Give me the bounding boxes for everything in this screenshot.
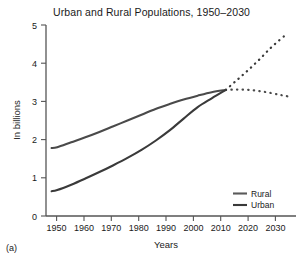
x-axis-title: Years xyxy=(154,239,178,250)
x-tick-label: 1990 xyxy=(156,223,176,233)
data-series-group xyxy=(52,36,291,191)
y-tick-label: 2 xyxy=(32,135,37,145)
figure-caption: (a) xyxy=(6,243,17,253)
legend-label-urban: Urban xyxy=(251,200,274,210)
figure-panel: Urban and Rural Populations, 1950–2030 0… xyxy=(0,0,303,263)
y-axis-tick-labels: 0 1 2 3 4 5 xyxy=(32,21,37,222)
x-tick-label: 2000 xyxy=(183,223,203,233)
x-tick-label: 1950 xyxy=(47,223,67,233)
y-tick-label: 5 xyxy=(32,21,37,31)
rural-line xyxy=(52,90,226,148)
y-tick-label: 0 xyxy=(32,212,37,222)
x-tick-label: 2010 xyxy=(211,223,231,233)
y-axis-title: In billions xyxy=(11,100,22,140)
rural-projection-line xyxy=(226,90,291,97)
y-tick-label: 3 xyxy=(32,97,37,107)
x-axis-tick-labels: 1950 1960 1970 1980 1990 2000 2010 2020 … xyxy=(47,223,286,233)
x-tick-label: 1970 xyxy=(101,223,121,233)
y-axis-ticks xyxy=(41,25,46,216)
x-tick-label: 1980 xyxy=(129,223,149,233)
chart-legend: Rural Urban xyxy=(233,189,274,211)
x-tick-label: 2020 xyxy=(238,223,258,233)
x-tick-label: 2030 xyxy=(265,223,285,233)
y-tick-label: 1 xyxy=(32,173,37,183)
x-axis-ticks xyxy=(57,216,276,221)
x-tick-label: 1960 xyxy=(74,223,94,233)
population-line-chart: 0 1 2 3 4 5 1950 1960 1970 1980 1990 200… xyxy=(0,0,303,263)
legend-label-rural: Rural xyxy=(251,189,271,199)
y-tick-label: 4 xyxy=(32,59,37,69)
urban-projection-line xyxy=(226,36,285,90)
